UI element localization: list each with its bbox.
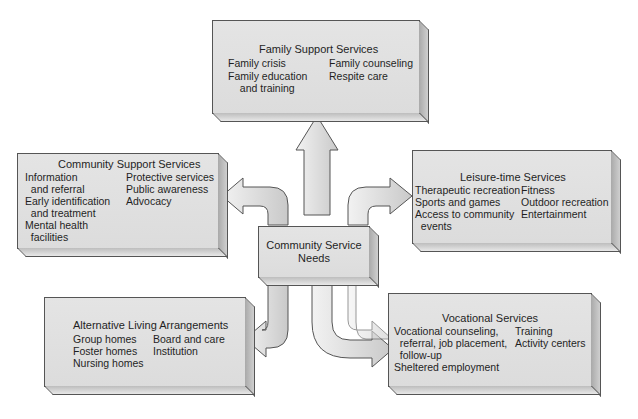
alternative-living-item: Foster homes	[73, 345, 137, 357]
vocational-services-title: Vocational Services	[442, 312, 538, 324]
community-support-item: and referral	[25, 183, 85, 195]
leisure-time-item: Access to community	[415, 208, 514, 220]
leisure-time-item: Entertainment	[521, 208, 586, 220]
center-label-line2: Needs	[259, 251, 369, 265]
alternative-living-item: Nursing homes	[73, 357, 144, 369]
family-support-title: Family Support Services	[259, 43, 378, 55]
community-support-item: and treatment	[25, 207, 96, 219]
leisure-time-title: Leisure-time Services	[460, 171, 566, 183]
alternative-living-box: Alternative Living Arrangements Group ho…	[44, 297, 246, 387]
community-support-item: Protective services	[126, 171, 214, 183]
arrow-to-leisure	[348, 178, 412, 225]
community-support-title: Community Support Services	[58, 158, 200, 170]
community-service-needs-box: Community Service Needs	[258, 226, 370, 278]
alternative-living-item: Institution	[153, 345, 198, 357]
alternative-living-item: Group homes	[73, 333, 137, 345]
center-label-line1: Community Service	[259, 238, 369, 252]
community-support-item: facilities	[25, 231, 68, 243]
vocational-services-item: Training	[515, 325, 553, 337]
alternative-living-title: Alternative Living Arrangements	[73, 319, 228, 331]
leisure-time-box: Leisure-time Services Therapeutic recrea…	[412, 150, 612, 244]
vocational-services-item: follow-up	[394, 349, 442, 361]
leisure-time-item: events	[415, 220, 452, 232]
arrow-to-community-support	[222, 178, 288, 225]
vocational-services-item: Activity centers	[515, 337, 586, 349]
vocational-services-box: Vocational Services Vocational counselin…	[388, 293, 592, 387]
leisure-time-item: Sports and games	[415, 196, 500, 208]
community-support-item: Early identification	[25, 195, 110, 207]
leisure-time-item: Fitness	[521, 184, 555, 196]
family-support-item: Respite care	[329, 70, 388, 82]
family-support-item: and training	[234, 82, 295, 94]
family-support-item: Family education	[228, 70, 307, 82]
arrow-center-stem	[348, 280, 392, 339]
family-support-item: Family crisis	[228, 57, 286, 69]
vocational-services-item: Sheltered employment	[394, 361, 499, 373]
family-support-box: Family Support Services Family crisis Fa…	[212, 20, 420, 114]
leisure-time-item: Outdoor recreation	[521, 196, 609, 208]
arrow-to-family-support	[296, 116, 338, 215]
vocational-services-item: Vocational counseling,	[394, 325, 499, 337]
community-support-item: Public awareness	[126, 183, 208, 195]
family-support-item: Family counseling	[329, 57, 413, 69]
community-support-box: Community Support Services Information a…	[17, 153, 219, 249]
community-support-item: Mental health	[25, 219, 88, 231]
leisure-time-item: Therapeutic recreation	[415, 184, 520, 196]
alternative-living-item: Board and care	[153, 333, 225, 345]
vocational-services-item: referral, job placement,	[394, 337, 507, 349]
community-support-item: Advocacy	[126, 195, 172, 207]
community-support-item: Information	[25, 171, 78, 183]
